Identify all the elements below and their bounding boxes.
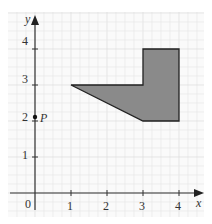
point-p-label: P [39,111,48,125]
y-axis-label: y [24,12,31,26]
x-tick-label-3: 3 [139,199,145,213]
coordinate-diagram: y x 0 1 2 3 4 1 2 3 4 P [0,0,212,224]
point-p-marker [33,115,37,119]
y-tick-label-4: 4 [22,34,28,48]
x-tick-label-2: 2 [103,199,109,213]
y-tick-label-3: 3 [22,72,28,86]
x-axis-label: x [195,196,202,210]
origin-label: 0 [25,197,31,211]
x-tick-label-1: 1 [67,199,73,213]
y-tick-label-1: 1 [22,148,28,162]
y-tick-label-2: 2 [22,110,28,124]
x-tick-label-4: 4 [175,199,181,213]
